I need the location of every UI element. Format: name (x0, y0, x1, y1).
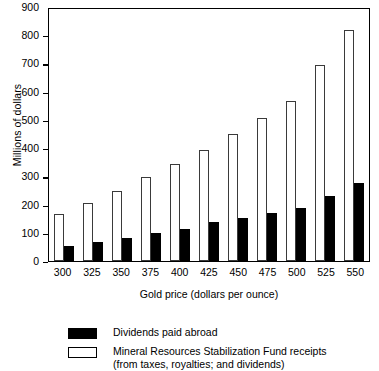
bar-dividends-paid-abroad (122, 238, 132, 261)
bar-group (107, 9, 136, 261)
chart-legend: Dividends paid abroad Mineral Resources … (68, 326, 373, 371)
bar-group (49, 9, 78, 261)
legend-swatch-white-icon (68, 347, 97, 358)
bar-fund-receipts (83, 203, 93, 261)
bar-dividends-paid-abroad (64, 246, 74, 261)
x-axis-tick-label: 550 (341, 266, 370, 279)
x-axis-title: Gold price (dollars per ounce) (48, 288, 370, 301)
bar-fund-receipts (344, 30, 354, 261)
legend-label-dividends: Dividends paid abroad (113, 326, 218, 339)
x-axis-tick-label: 500 (282, 266, 311, 279)
bar-dividends-paid-abroad (151, 233, 161, 261)
y-axis-tick-label: 500 (3, 114, 39, 126)
bar-group (194, 9, 223, 261)
x-axis-tick-label: 425 (194, 266, 223, 279)
bar-fund-receipts (199, 150, 209, 261)
y-axis-tick-label: 900 (3, 1, 39, 13)
legend-label-dividends-main: Dividends paid abroad (113, 326, 218, 338)
bar-fund-receipts (54, 214, 64, 261)
bar-group (340, 9, 369, 261)
bar-dividends-paid-abroad (180, 229, 190, 261)
bar-dividends-paid-abroad (93, 242, 103, 261)
y-axis-tick-label: 700 (3, 57, 39, 69)
bar-fund-receipts (228, 134, 238, 261)
bar-group (136, 9, 165, 261)
y-axis-tick-label: 600 (3, 86, 39, 98)
bar-dividends-paid-abroad (354, 183, 364, 261)
x-axis-tick-label: 325 (77, 266, 106, 279)
bar-fund-receipts (315, 65, 325, 261)
y-axis-tick-label: 300 (3, 170, 39, 182)
bar-chart-figure: Millions of dollars 90080070060050040030… (0, 0, 379, 371)
bar-dividends-paid-abroad (325, 196, 335, 261)
legend-item-fund-receipts: Mineral Resources Stabilization Fund rec… (68, 345, 373, 370)
plot-area (48, 8, 370, 262)
x-axis-tick-label: 375 (136, 266, 165, 279)
legend-label-fund-receipts-sub: (from taxes, royalties; and dividends) (113, 358, 327, 371)
y-axis-tick-label: 0 (3, 255, 39, 267)
legend-label-fund-receipts: Mineral Resources Stabilization Fund rec… (113, 345, 327, 370)
bar-fund-receipts (286, 101, 296, 261)
x-axis-tick-label: 525 (311, 266, 340, 279)
bar-fund-receipts (257, 118, 267, 261)
y-axis-tick-label: 200 (3, 199, 39, 211)
x-axis-tick-label: 450 (224, 266, 253, 279)
bar-fund-receipts (112, 191, 122, 261)
y-axis-ticks: 9008007006005004003002001000 (0, 0, 48, 262)
bar-group (224, 9, 253, 261)
bar-fund-receipts (170, 164, 180, 261)
x-axis-tick-labels: 300325350375400425450475500525550 (48, 266, 370, 279)
bar-dividends-paid-abroad (209, 222, 219, 261)
bar-dividends-paid-abroad (296, 208, 306, 261)
x-axis-tick-label: 350 (107, 266, 136, 279)
bar-fund-receipts (141, 177, 151, 261)
bar-group (78, 9, 107, 261)
y-axis-tick-label: 400 (3, 142, 39, 154)
bars-layer (49, 9, 369, 261)
x-axis-tick-label: 475 (253, 266, 282, 279)
x-axis-tick-label: 400 (165, 266, 194, 279)
bar-dividends-paid-abroad (238, 218, 248, 261)
bar-group (165, 9, 194, 261)
legend-label-fund-receipts-main: Mineral Resources Stabilization Fund rec… (113, 345, 327, 357)
bar-group (253, 9, 282, 261)
bar-group (282, 9, 311, 261)
legend-item-dividends: Dividends paid abroad (68, 326, 373, 339)
x-axis-tick-label: 300 (48, 266, 77, 279)
y-axis-tick-mark (43, 262, 48, 263)
legend-swatch-black-icon (68, 328, 97, 339)
bar-group (311, 9, 340, 261)
y-axis-tick-label: 800 (3, 29, 39, 41)
y-axis-tick-label: 100 (3, 227, 39, 239)
bar-dividends-paid-abroad (267, 213, 277, 261)
